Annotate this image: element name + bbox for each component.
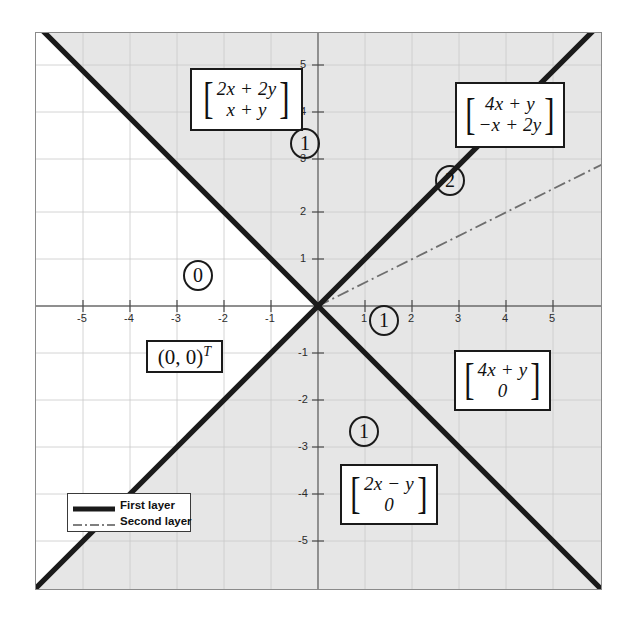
matrix-upper-wedge: [ 2x + 2y x + y ] — [201, 79, 292, 120]
y-tick-label--1: -1 — [298, 346, 308, 358]
region-marker-one-lower: 1 — [349, 416, 379, 447]
legend-swatch-solid-icon — [72, 500, 116, 510]
annotation-box-right-lower: [ 4x + y 0 ] — [454, 350, 551, 411]
legend: First layer Second layer — [67, 493, 191, 532]
bracket-left-icon: [ — [203, 79, 213, 119]
matrix-row-2: 0 — [384, 495, 394, 516]
legend-label-second-layer: Second layer — [120, 515, 192, 527]
region-marker-zero: 0 — [183, 260, 213, 291]
y-tick-label-2: 2 — [300, 205, 306, 217]
legend-item-second-layer: Second layer — [72, 513, 186, 529]
bracket-right-icon: ] — [417, 474, 427, 514]
x-tick-label-2: 2 — [408, 312, 414, 324]
annotation-box-origin: (0, 0)T — [146, 340, 223, 373]
matrix-row-2: 0 — [498, 381, 508, 402]
bracket-right-icon: ] — [531, 360, 541, 400]
x-tick-label-5: 5 — [549, 312, 555, 324]
matrix-row-1: 4x + y — [478, 360, 528, 381]
bracket-left-icon: [ — [464, 360, 474, 400]
matrix-row-1: 2x + 2y — [217, 79, 277, 100]
x-tick-label--2: -2 — [218, 312, 228, 324]
region-marker-one-right: 1 — [369, 305, 399, 336]
matrix-row-2: −x + 2y — [479, 115, 542, 136]
x-tick-label-3: 3 — [455, 312, 461, 324]
y-tick-label--2: -2 — [298, 393, 308, 405]
matrix-bottom: [ 2x − y 0 ] — [348, 474, 429, 515]
y-tick-label--5: -5 — [298, 534, 308, 546]
bracket-left-icon: [ — [351, 474, 361, 514]
matrix-row-1: 4x + y — [485, 94, 535, 115]
matrix-right-lower: [ 4x + y 0 ] — [462, 360, 543, 401]
origin-vector-text: (0, 0)T — [158, 344, 211, 370]
x-tick-label-1: 1 — [361, 312, 367, 324]
x-tick-label--5: -5 — [77, 312, 87, 324]
legend-swatch-dashdot-icon — [72, 516, 116, 526]
y-tick-label--4: -4 — [298, 487, 308, 499]
bracket-left-icon: [ — [465, 95, 475, 135]
matrix-row-1: 2x − y — [364, 474, 414, 495]
annotation-box-region-two: [ 4x + y −x + 2y ] — [455, 82, 565, 148]
matrix-region-two: [ 4x + y −x + 2y ] — [463, 94, 557, 135]
x-tick-label--3: -3 — [171, 312, 181, 324]
bracket-right-icon: ] — [279, 79, 289, 119]
x-tick-label--1: -1 — [265, 312, 275, 324]
legend-label-first-layer: First layer — [120, 499, 175, 511]
matrix-row-2: x + y — [226, 100, 266, 121]
transpose-superscript: T — [203, 344, 211, 359]
annotation-box-upper-wedge: [ 2x + 2y x + y ] — [190, 68, 303, 131]
region-marker-one-upper: 1 — [290, 128, 320, 159]
math-region-figure: -5 -4 -3 -2 -1 1 2 3 4 5 5 4 3 2 1 -1 -2… — [0, 0, 631, 619]
origin-vector-value: (0, 0) — [158, 345, 204, 369]
legend-item-first-layer: First layer — [72, 497, 186, 513]
region-marker-two: 2 — [435, 165, 465, 196]
y-tick-label-1: 1 — [300, 252, 306, 264]
bracket-right-icon: ] — [545, 95, 555, 135]
x-tick-label--4: -4 — [124, 312, 134, 324]
y-tick-label--3: -3 — [298, 440, 308, 452]
annotation-box-bottom: [ 2x − y 0 ] — [340, 464, 438, 525]
x-tick-label-4: 4 — [502, 312, 508, 324]
